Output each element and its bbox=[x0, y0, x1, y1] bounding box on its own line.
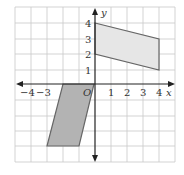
x-tick-4: 4 bbox=[156, 87, 162, 98]
x-tick-3: 3 bbox=[140, 87, 146, 98]
coordinate-grid: y x O −4 −3 1 2 3 4 4 3 2 1 bbox=[0, 0, 184, 175]
y-axis-down-arrow-icon bbox=[92, 155, 98, 162]
y-tick-4: 4 bbox=[85, 18, 91, 29]
y-axis-up-arrow-icon bbox=[92, 8, 98, 15]
origin-label: O bbox=[83, 87, 91, 98]
x-tick-1: 1 bbox=[108, 87, 114, 98]
x-tick-neg3: −3 bbox=[36, 87, 51, 98]
x-axis-label: x bbox=[166, 87, 172, 98]
y-axis-label: y bbox=[100, 7, 107, 18]
y-tick-3: 3 bbox=[85, 34, 91, 45]
y-tick-1: 1 bbox=[85, 65, 91, 76]
y-tick-2: 2 bbox=[85, 49, 91, 60]
x-tick-neg4: −4 bbox=[20, 87, 35, 98]
x-tick-2: 2 bbox=[124, 87, 130, 98]
